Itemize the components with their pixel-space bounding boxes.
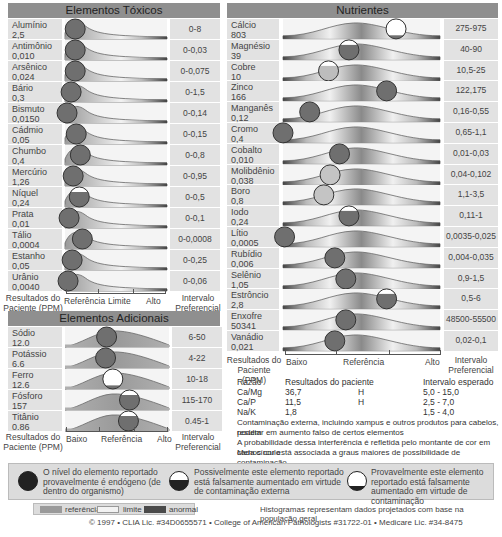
element-label: Boro0,8 (227, 185, 279, 205)
reference-range: 0,5-6 (444, 289, 498, 309)
ratio-header-expected: Intervalo esperado (423, 377, 493, 387)
ratio-expected: 1,5 - 4,0 (423, 407, 454, 417)
reference-range: 48500-55500 (444, 310, 498, 330)
histogram-plot (283, 61, 440, 81)
element-value: 157 (12, 401, 62, 411)
swatch-reference (40, 506, 62, 513)
result-marker-icon (336, 268, 356, 288)
ratio-header-ratio: Razão (237, 377, 262, 387)
element-name: Enxofre (231, 311, 279, 321)
table-row: Vanádio0,0210,02-0,1 (0, 331, 502, 352)
nutrients-title: Nutrientes (227, 3, 498, 18)
table-row: Cobre1010,5-25 (0, 61, 502, 82)
histogram-plot (283, 248, 440, 268)
ratio-name: Na/K (237, 407, 256, 417)
result-marker-icon (319, 60, 339, 80)
additional-axis-line (66, 431, 167, 432)
result-marker-icon (275, 227, 295, 247)
element-label: Ferro12.6 (8, 369, 62, 389)
legend-box: O nível do elemento reportado provavelme… (8, 463, 494, 500)
result-marker-icon (119, 390, 139, 410)
element-name: Fósforo (12, 391, 62, 401)
result-marker-icon (386, 19, 406, 39)
histogram-plot (283, 289, 440, 309)
reference-range: 0,04-0,102 (444, 165, 498, 185)
histogram-plot (283, 331, 440, 351)
element-value: 0,0005 (231, 238, 279, 248)
additional-axis-low: Baixo (66, 434, 87, 444)
histogram-plot (283, 40, 440, 60)
histogram-plot (283, 81, 440, 101)
element-value: 1,05 (231, 280, 279, 290)
element-value: 803 (231, 30, 279, 40)
element-label: Titânio0.86 (8, 411, 62, 431)
element-value: 10 (231, 72, 279, 82)
element-label: Vanádio0,021 (227, 331, 279, 351)
table-row: Lítio0,00050,0035-0,025 (0, 227, 502, 248)
axis-tick (167, 427, 168, 432)
result-marker-icon (339, 40, 359, 60)
element-name: Vanádio (231, 332, 279, 342)
copyright: © 1997 • CLIA Lic. #34D0655571 • College… (89, 518, 463, 527)
histogram-plot (283, 144, 440, 164)
table-row: Iodo0,240,11-1 (0, 206, 502, 227)
ratio-name: Ca/Mg (237, 387, 262, 397)
table-row: Magnésio3940-90 (0, 40, 502, 61)
element-name: Molibdênio (231, 166, 279, 176)
ratio-header-result: Resultados do paciente (285, 377, 374, 387)
result-marker-icon (377, 81, 397, 101)
element-name: Ferro (12, 370, 62, 380)
element-value: 2,8 (231, 300, 279, 310)
element-label: Rubídio0,006 (227, 248, 279, 268)
element-name: Rubídio (231, 249, 279, 259)
element-name: Magnésio (231, 41, 279, 51)
reference-range: 1,1-3,5 (444, 185, 498, 205)
swatch-limit (97, 506, 119, 513)
legend-probable-text: Provavelmente este elemento reportado es… (371, 468, 493, 506)
element-name: Zinco (231, 82, 279, 92)
element-label: Iodo0,24 (227, 206, 279, 226)
swatch-reference-label: referência (65, 505, 101, 514)
element-label: Magnésio39 (227, 40, 279, 60)
reference-range: 115-170 (172, 390, 222, 410)
reference-range: 0,01-0,03 (444, 144, 498, 164)
element-value: 0,006 (231, 259, 279, 269)
nutrients-footer-right: Intervalo Preferencial (445, 355, 497, 375)
element-value: 0,8 (231, 196, 279, 206)
additional-footer-left: Resultados do Paciente (PPM) (2, 432, 64, 452)
result-marker-icon (320, 164, 340, 184)
result-marker-icon (339, 206, 359, 226)
element-name: Selênio (231, 270, 279, 280)
additional-axis-ref: Referência (101, 434, 142, 444)
histogram-plot (283, 310, 440, 330)
element-label: Enxofre50341 (227, 310, 279, 330)
element-value: 0,12 (231, 113, 279, 123)
reference-range: 0,65-1,1 (444, 123, 498, 143)
result-marker-icon (118, 411, 138, 431)
element-value: 39 (231, 51, 279, 61)
ratio-flag: H (358, 397, 364, 407)
legend-endogenous-text: O nível do elemento reportado provavelme… (43, 468, 168, 497)
ratio-result: 36,7 (285, 387, 302, 397)
note-line-2: resultar em aumento falso de certos elem… (237, 428, 404, 438)
element-label: Cobre10 (227, 61, 279, 81)
axis-tick (285, 350, 286, 355)
result-marker-icon (273, 123, 293, 143)
nutrients-axis-low: Baixo (286, 357, 307, 367)
result-marker-icon (300, 102, 320, 122)
reference-range: 10,5-25 (444, 61, 498, 81)
element-name: Manganês (231, 103, 279, 113)
table-row: Cromo0,40,65-1,1 (0, 123, 502, 144)
element-label: Lítio0,0005 (227, 227, 279, 247)
element-value: 6.6 (12, 359, 62, 369)
element-name: Cobalto (231, 145, 279, 155)
element-value: 0.86 (12, 422, 62, 432)
element-value: 50341 (231, 321, 279, 331)
ratio-result: 1,8 (285, 407, 297, 417)
axis-tick (66, 427, 67, 432)
legend-possible-text: Possivelmente este elemento reportado es… (194, 468, 344, 497)
histogram-plot (283, 185, 440, 205)
additional-footer-right: Intervalo Preferencial (172, 432, 224, 452)
half-circle-icon (169, 471, 189, 491)
ratio-name: Ca/P (237, 397, 256, 407)
